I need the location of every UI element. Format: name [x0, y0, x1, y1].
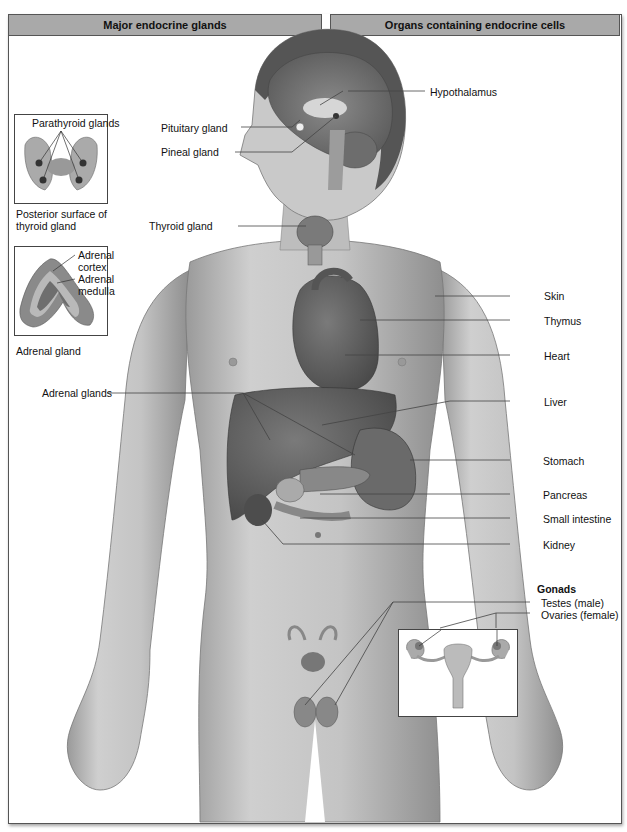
adrenal-inset: Adrenal cortex Adrenal medulla [14, 246, 108, 336]
testis-left [294, 697, 316, 727]
adrenal-medulla-label-2: medulla [78, 285, 115, 297]
testis-right [316, 697, 338, 727]
thyroid-inset-caption-1: Posterior surface of [16, 208, 107, 220]
ovaries-inset [398, 629, 518, 717]
label-thyroid-gland: Thyroid gland [149, 220, 213, 232]
heart [293, 276, 379, 391]
label-pituitary-gland: Pituitary gland [161, 122, 228, 134]
female-reproductive-illustration [399, 630, 517, 716]
label-stomach: Stomach [543, 455, 584, 467]
left-arm [67, 270, 190, 790]
label-gonads: Gonads [537, 583, 576, 595]
label-heart: Heart [544, 350, 570, 362]
label-pineal-gland: Pineal gland [161, 146, 219, 158]
label-small-intestine: Small intestine [543, 513, 611, 525]
label-hypothalamus: Hypothalamus [430, 86, 497, 98]
pituitary [296, 123, 304, 131]
bladder [301, 652, 325, 672]
label-thymus: Thymus [544, 315, 581, 327]
thyroid-inset: Parathyroid glands [14, 114, 108, 204]
thalamus [303, 98, 347, 118]
adrenal-medulla-label-1: Adrenal [78, 273, 114, 285]
label-adrenal-glands: Adrenal glands [42, 387, 112, 399]
adrenal-inset-caption: Adrenal gland [16, 345, 81, 357]
label-skin: Skin [544, 290, 564, 302]
thyroid [297, 216, 333, 248]
kidney [244, 494, 272, 526]
adrenal-cortex-label-1: Adrenal [78, 249, 114, 261]
trachea [308, 245, 322, 265]
label-ovaries: Ovaries (female) [541, 609, 619, 621]
thyroid-inset-caption-2: thyroid gland [16, 220, 76, 232]
adrenal-cortex-label-2: cortex [78, 261, 107, 273]
label-liver: Liver [544, 396, 567, 408]
label-pancreas: Pancreas [543, 489, 587, 501]
label-testes: Testes (male) [541, 597, 604, 609]
label-kidney: Kidney [543, 539, 575, 551]
parathyroid-label: Parathyroid glands [32, 117, 120, 129]
navel [315, 532, 321, 538]
